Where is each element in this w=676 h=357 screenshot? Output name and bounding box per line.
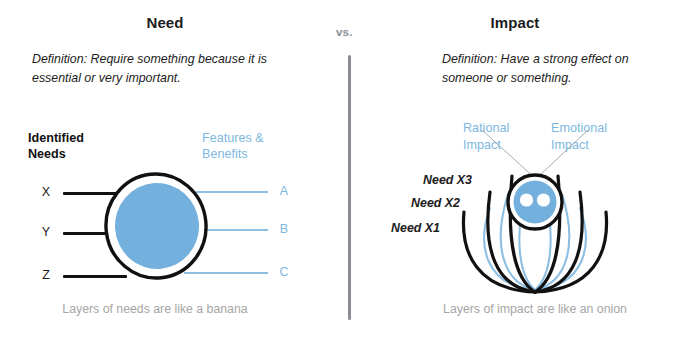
banana-layers-diagram [100,168,216,286]
comparison-infographic: vs. Need Definition: Require something b… [0,0,676,357]
need-item-label-y: Y [38,225,54,239]
impact-panel-title: Impact [455,14,575,31]
benefit-item-label-c: C [276,265,292,279]
onion-layers-diagram [390,150,670,310]
onion-core-fill [514,181,557,224]
impact-caption: Layers of impact are like an onion [425,300,645,318]
impact-definition: Definition: Have a strong effect on some… [442,50,662,88]
onion-core-dot-left [520,193,533,206]
need-panel-title: Need [110,14,220,31]
versus-label: vs. [336,26,353,38]
benefit-item-label-b: B [276,222,292,236]
need-definition: Definition: Require something because it… [32,50,302,88]
benefit-item-label-a: A [276,184,292,198]
need-item-label-x: X [38,185,54,199]
features-benefits-heading: Features & Benefits [202,130,264,162]
panel-divider [348,55,351,320]
identified-needs-heading: Identified Needs [28,130,84,162]
emotional-impact-label: Emotional Impact [551,120,607,154]
need-item-label-z: Z [38,268,54,282]
need-caption: Layers of needs are like a banana [45,300,265,318]
onion-core-dot-right [537,193,550,206]
